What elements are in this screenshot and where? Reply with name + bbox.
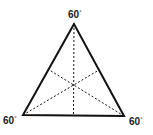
- angle-label-bottom-right: 60°: [129, 116, 143, 127]
- angle-label-bottom-left: 60°: [3, 115, 17, 126]
- angle-label-top: 60°: [68, 9, 82, 20]
- median-bottom-right: [49, 70, 125, 117]
- degree-symbol: °: [140, 116, 142, 122]
- triangle-diagram: 60° 60° 60°: [0, 0, 153, 135]
- angle-value: 60: [3, 115, 14, 126]
- median-bottom-left: [23, 70, 99, 115]
- median-top: [74, 24, 75, 116]
- degree-symbol: °: [79, 9, 81, 15]
- angle-value: 60: [129, 116, 140, 127]
- angle-value: 60: [68, 9, 79, 20]
- degree-symbol: °: [14, 115, 16, 121]
